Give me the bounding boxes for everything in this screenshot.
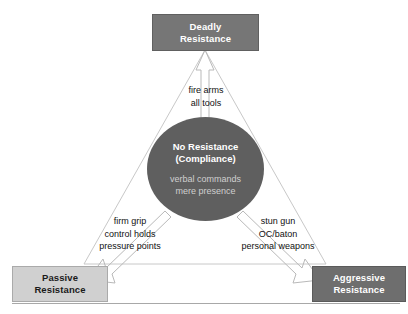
- edge-label-aggressive-force-options: stun gun OC/baton personal weapons: [216, 215, 340, 253]
- edge-label-passive-force-options: firm grip control holds pressure points: [78, 215, 182, 253]
- edge-label-left-line3: pressure points: [78, 240, 182, 253]
- node-deadly-resistance[interactable]: Deadly Resistance: [152, 14, 259, 51]
- edge-label-top-line2: all tools: [159, 97, 253, 110]
- footer-divider: [12, 303, 400, 304]
- edge-label-left-line2: control holds: [78, 228, 182, 241]
- edge-label-right-line1: stun gun: [216, 215, 340, 228]
- node-aggressive-label-line1: Aggressive: [333, 272, 385, 284]
- node-aggressive-label-line2: Resistance: [333, 284, 384, 296]
- edge-label-deadly-force-options: fire arms all tools: [159, 84, 253, 109]
- core-title-line1: No Resistance: [173, 141, 238, 154]
- node-aggressive-resistance[interactable]: Aggressive Resistance: [312, 266, 406, 302]
- node-deadly-label-line1: Deadly: [190, 21, 222, 33]
- node-no-resistance-circle[interactable]: No Resistance (Compliance) verbal comman…: [147, 117, 264, 221]
- node-passive-label-line1: Passive: [42, 272, 78, 284]
- edge-label-right-line3: personal weapons: [216, 240, 340, 253]
- core-title-line2: (Compliance): [175, 153, 235, 166]
- core-subtext-line1: verbal commands: [170, 173, 241, 186]
- edge-label-right-line2: OC/baton: [216, 228, 340, 241]
- edge-label-left-line1: firm grip: [78, 215, 182, 228]
- node-deadly-label-line2: Resistance: [180, 33, 231, 45]
- node-passive-label-line2: Resistance: [34, 284, 85, 296]
- edge-label-top-line1: fire arms: [159, 84, 253, 97]
- core-subtext-line2: mere presence: [175, 185, 235, 198]
- node-passive-resistance[interactable]: Passive Resistance: [12, 266, 108, 302]
- diagram-canvas: Deadly Resistance Passive Resistance Agg…: [0, 0, 408, 314]
